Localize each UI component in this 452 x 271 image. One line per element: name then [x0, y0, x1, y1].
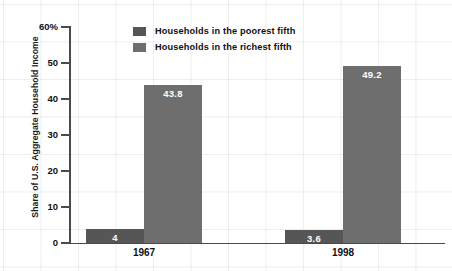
- legend-item-label: Households in the poorest fifth: [155, 26, 295, 36]
- y-axis-tick-label-wrap: 30: [0, 129, 58, 141]
- y-axis-tick-mark: [61, 242, 69, 243]
- chart-container: Share of U.S. Aggregate Household Income…: [0, 0, 452, 271]
- y-axis-tick-mark: [61, 134, 69, 135]
- y-axis-tick-mark: [61, 62, 69, 63]
- plot-area: 443.83.649.2: [70, 27, 445, 243]
- y-axis-tick-label: 20: [12, 165, 58, 176]
- chart-legend: Households in the poorest fifthHousehold…: [133, 24, 295, 56]
- bar-value-label: 4: [86, 232, 144, 243]
- bar-value-label: 43.8: [144, 88, 202, 99]
- legend-item: Households in the richest fifth: [133, 40, 295, 54]
- legend-color-swatch-icon: [133, 43, 146, 52]
- bar-value-label: 3.6: [285, 233, 343, 244]
- y-axis-tick-mark: [61, 98, 69, 99]
- y-axis-tick-label-wrap: 0: [0, 237, 58, 249]
- y-axis-tick-label-wrap: 60%: [0, 21, 58, 33]
- y-axis-tick-label: 10: [12, 201, 58, 212]
- y-axis-tick-label: 30: [12, 129, 58, 140]
- bar-value-label: 49.2: [343, 69, 401, 80]
- legend-color-swatch-icon: [133, 27, 146, 36]
- y-axis-tick-label: 0: [12, 237, 58, 248]
- y-axis-tick-label-wrap: 10: [0, 201, 58, 213]
- y-axis-tick-mark: [61, 170, 69, 171]
- y-axis-tick-mark: [61, 26, 69, 27]
- y-axis-tick-label: 40: [12, 93, 58, 104]
- y-axis-tick-label: 50: [12, 57, 58, 68]
- x-axis-group-label: 1967: [86, 247, 202, 258]
- bar: 4: [86, 229, 144, 243]
- legend-item-label: Households in the richest fifth: [155, 42, 292, 52]
- y-axis-tick-label-wrap: 50: [0, 57, 58, 69]
- bar: 3.6: [285, 230, 343, 243]
- y-axis-tick-mark: [61, 206, 69, 207]
- bar: 43.8: [144, 85, 202, 243]
- y-axis-tick-label-wrap: 20: [0, 165, 58, 177]
- bar: 49.2: [343, 66, 401, 243]
- x-axis-group-label: 1998: [285, 247, 401, 258]
- y-axis-tick-label: 60%: [12, 21, 58, 32]
- legend-item: Households in the poorest fifth: [133, 24, 295, 38]
- y-axis-tick-label-wrap: 40: [0, 93, 58, 105]
